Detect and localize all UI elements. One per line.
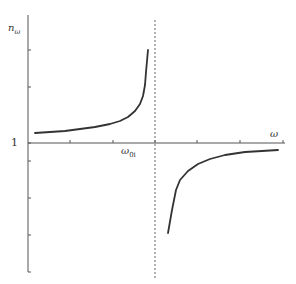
resonance-label: ω0i	[121, 145, 136, 159]
resonance-label-subscript: 0i	[129, 151, 136, 159]
x-axis	[28, 140, 285, 143]
y-axis-label: nω	[8, 22, 20, 36]
curve-below-resonance	[35, 50, 148, 133]
y-axis-label-subscript: ω	[14, 28, 20, 36]
resonance-label-main: ω	[121, 145, 129, 156]
curve-above-resonance	[168, 150, 278, 233]
x-axis-label: ω	[270, 128, 278, 139]
dispersion-plot	[0, 0, 296, 284]
y-reference-label: 1	[11, 136, 18, 149]
